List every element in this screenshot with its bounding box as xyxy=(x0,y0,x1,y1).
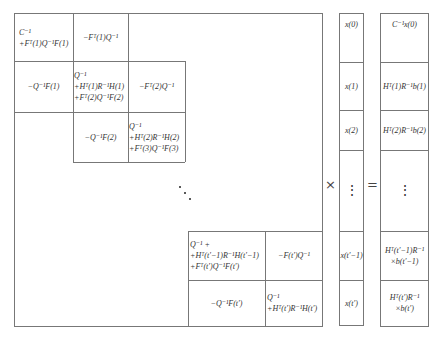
vertical-ellipsis-icon: ⋮ xyxy=(345,187,359,194)
vertical-ellipsis-icon: ⋮ xyxy=(398,187,412,194)
block-1-2: −Fᵀ(1)Q⁻¹ xyxy=(73,14,128,61)
x-entry-2: x(2) xyxy=(339,110,364,150)
block-text: +Fᵀ(3)Q⁻¹F(3) xyxy=(129,143,185,154)
block-text: C⁻¹ xyxy=(19,27,73,38)
block-text: −Fᵀ(2)Q⁻¹ xyxy=(139,81,174,92)
block-text: −Q⁻¹F(2) xyxy=(84,132,116,143)
x-text: x(2) xyxy=(345,125,358,136)
rhs-entry-t: Hᵀ(t′)R⁻¹ ×b(t′) xyxy=(380,280,429,326)
block-3-3: Q⁻¹ +Hᵀ(2)R⁻¹H(2) +Fᵀ(3)Q⁻¹F(3) xyxy=(128,112,185,162)
block-text: −F(t′)Q⁻¹ xyxy=(278,250,310,261)
rhs-text: Hᵀ(t′−1)R⁻¹ xyxy=(385,245,424,256)
grid-line xyxy=(73,162,185,163)
block-text: −Q⁻¹F(1) xyxy=(27,81,59,92)
block-text: −Q⁻¹F(t′) xyxy=(211,298,243,309)
x-text: x(t′) xyxy=(345,298,358,309)
x-entry-t: x(t′) xyxy=(339,280,364,326)
x-entry-t-1: x(t′−1) xyxy=(339,231,364,280)
block-text: +Hᵀ(1)R⁻¹H(1) xyxy=(74,81,128,92)
x-entry-vdots: ⋮ xyxy=(339,150,364,231)
block-text: +Fᵀ(1)Q⁻¹F(1) xyxy=(19,38,73,49)
block-n-n-1: −Q⁻¹F(t′) xyxy=(188,280,265,326)
block-n-1-n-1: Q⁻¹ + +Hᵀ(t′−1)R⁻¹H(t′−1) +Fᵀ(t′)Q⁻¹F(t′… xyxy=(188,231,265,280)
block-text: Q⁻¹ + xyxy=(190,239,265,250)
x-entry-0: x(0) xyxy=(339,13,364,35)
block-text: −Fᵀ(1)Q⁻¹ xyxy=(83,32,118,43)
rhs-entry-2: Hᵀ(2)R⁻¹b(2) xyxy=(380,110,429,150)
block-text: +Hᵀ(t′)R⁻¹H(t′) xyxy=(267,303,323,314)
block-1-1: C⁻¹ +Fᵀ(1)Q⁻¹F(1) xyxy=(16,14,73,61)
block-3-2: −Q⁻¹F(2) xyxy=(73,112,128,162)
block-n-1-n: −F(t′)Q⁻¹ xyxy=(265,231,323,280)
block-2-1: −Q⁻¹F(1) xyxy=(14,61,73,112)
rhs-entry-vdots: ⋮ xyxy=(380,150,429,231)
x-text: x(0) xyxy=(345,19,358,30)
rhs-text: Hᵀ(1)R⁻¹b(1) xyxy=(383,81,426,92)
x-text: x(1) xyxy=(345,81,358,92)
rhs-entry-0: C⁻¹x(0) xyxy=(380,13,429,35)
block-text: Q⁻¹ xyxy=(129,121,185,132)
rhs-text: Hᵀ(t′)R⁻¹ xyxy=(390,292,420,303)
rhs-entry-1: Hᵀ(1)R⁻¹b(1) xyxy=(380,62,429,110)
block-text: +Fᵀ(2)Q⁻¹F(2) xyxy=(74,92,128,103)
block-text: Q⁻¹ xyxy=(74,70,128,81)
block-text: Q⁻¹ xyxy=(267,292,323,303)
block-n-n: Q⁻¹ +Hᵀ(t′)R⁻¹H(t′) xyxy=(265,280,323,326)
times-operator: × xyxy=(325,177,336,192)
rhs-text: C⁻¹x(0) xyxy=(392,19,417,30)
block-text: +Hᵀ(t′−1)R⁻¹H(t′−1) xyxy=(190,250,265,261)
rhs-entry-t-1: Hᵀ(t′−1)R⁻¹ ×b(t′−1) xyxy=(380,231,429,280)
rhs-text: ×b(t′−1) xyxy=(390,256,418,267)
block-text: +Fᵀ(t′)Q⁻¹F(t′) xyxy=(190,261,265,272)
block-2-2: Q⁻¹ +Hᵀ(1)R⁻¹H(1) +Fᵀ(2)Q⁻¹F(2) xyxy=(73,61,128,112)
block-text: +Hᵀ(2)R⁻¹H(2) xyxy=(129,132,185,143)
rhs-text: ×b(t′) xyxy=(395,303,414,314)
x-text: x(t′−1) xyxy=(340,250,362,261)
equals-operator: = xyxy=(367,177,378,192)
rhs-text: Hᵀ(2)R⁻¹b(2) xyxy=(383,125,426,136)
x-entry-1: x(1) xyxy=(339,62,364,110)
block-2-3: −Fᵀ(2)Q⁻¹ xyxy=(128,61,185,112)
grid-line xyxy=(185,61,186,162)
